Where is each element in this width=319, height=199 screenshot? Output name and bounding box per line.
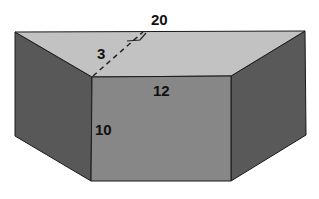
label-depth: 10 [95,121,112,138]
trapezoidal-prism-diagram: 20 3 12 10 [0,0,319,199]
label-top-length: 20 [151,11,168,28]
label-slant-height: 3 [97,45,105,62]
label-bottom-length: 12 [153,82,170,99]
